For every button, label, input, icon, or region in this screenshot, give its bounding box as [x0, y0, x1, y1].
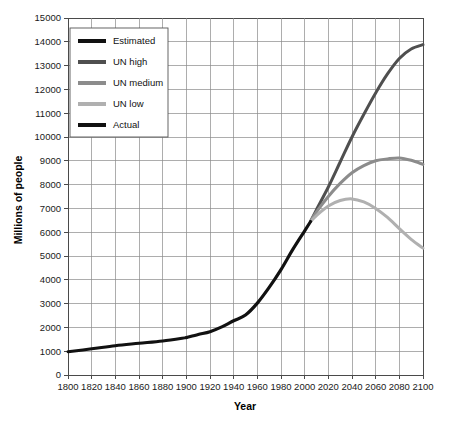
x-tick-label: 1860 — [128, 381, 149, 392]
x-tick-label: 1900 — [176, 381, 197, 392]
y-tick-label: 9000 — [40, 155, 61, 166]
y-tick-label: 8000 — [40, 179, 61, 190]
y-tick-label: 6000 — [40, 227, 61, 238]
x-tick-label: 2020 — [318, 381, 339, 392]
legend-label-actual[interactable]: Actual — [113, 119, 139, 130]
x-tick-label: 1820 — [81, 381, 102, 392]
legend-label-un-high[interactable]: UN high — [113, 56, 147, 67]
y-tick-label: 14000 — [35, 36, 61, 47]
x-tick-label: 1940 — [223, 381, 244, 392]
y-axis-title: Millions of people — [12, 156, 24, 245]
chart-container: 0100020003000400050006000700080009000100… — [0, 0, 449, 423]
y-tick-label: 11000 — [35, 108, 61, 119]
y-tick-label: 10000 — [35, 131, 61, 142]
x-tick-label: 2000 — [294, 381, 315, 392]
series-line-un-high — [311, 45, 423, 222]
series-line-un-low — [311, 199, 423, 248]
x-tick-label: 2100 — [412, 381, 433, 392]
y-tick-label: 12000 — [35, 84, 61, 95]
x-axis-title: Year — [234, 400, 256, 412]
x-tick-label: 1800 — [57, 381, 78, 392]
y-tick-label: 3000 — [40, 298, 61, 309]
population-line-chart: 0100020003000400050006000700080009000100… — [0, 0, 449, 423]
x-tick-label: 1920 — [199, 381, 220, 392]
y-tick-label: 5000 — [40, 250, 61, 261]
y-tick-label: 2000 — [40, 322, 61, 333]
x-tick-label: 1960 — [247, 381, 268, 392]
x-tick-label: 2040 — [341, 381, 362, 392]
y-tick-label: 15000 — [35, 12, 61, 23]
x-tick-label: 1840 — [105, 381, 126, 392]
y-tick-label: 0 — [56, 369, 61, 380]
y-tick-label: 1000 — [40, 346, 61, 357]
x-tick-label: 1980 — [270, 381, 291, 392]
y-tick-label: 7000 — [40, 203, 61, 214]
x-tick-label: 2060 — [365, 381, 386, 392]
legend-label-estimated[interactable]: Estimated — [113, 35, 155, 46]
x-tick-label: 2080 — [389, 381, 410, 392]
legend-label-un-medium[interactable]: UN medium — [113, 77, 163, 88]
chart-legend[interactable]: EstimatedUN highUN mediumUN lowActual — [70, 28, 168, 137]
y-tick-label: 4000 — [40, 274, 61, 285]
legend-label-un-low[interactable]: UN low — [113, 98, 144, 109]
series-line-estimated — [68, 338, 186, 352]
x-tick-label: 1880 — [152, 381, 173, 392]
y-tick-label: 13000 — [35, 60, 61, 71]
